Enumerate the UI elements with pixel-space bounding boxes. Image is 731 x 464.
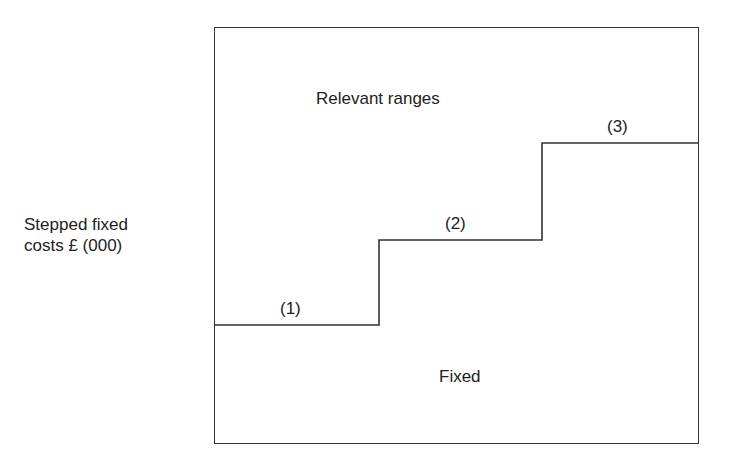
relevant-ranges-label: Relevant ranges — [316, 89, 440, 109]
y-axis-label-line2: costs £ (000) — [24, 235, 128, 256]
y-axis-label-line1: Stepped fixed — [24, 214, 128, 235]
y-axis-label: Stepped fixed costs £ (000) — [24, 214, 128, 256]
step-1-label: (1) — [280, 299, 301, 319]
step-3-label: (3) — [607, 117, 628, 137]
fixed-label: Fixed — [439, 367, 481, 387]
step-2-label: (2) — [445, 214, 466, 234]
